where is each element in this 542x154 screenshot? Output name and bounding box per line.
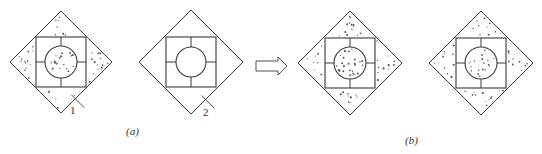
outer-diamond (429, 11, 533, 115)
diagram-canvas (0, 0, 542, 154)
center-circle (45, 46, 77, 78)
caption-a: (a) (126, 125, 139, 137)
panel-b1 (298, 11, 402, 115)
callout-label-1: 1 (70, 104, 76, 116)
outer-diamond (10, 11, 112, 113)
caption-b: (b) (405, 134, 418, 146)
panel-a2 (139, 10, 243, 114)
hollow-right-arrow-icon (256, 57, 287, 75)
callout-label-2: 2 (203, 106, 209, 118)
outer-diamond (139, 10, 243, 114)
panel-a1 (10, 11, 112, 113)
center-circle (334, 47, 366, 79)
center-circle (176, 47, 206, 77)
panel-b2 (429, 11, 533, 115)
